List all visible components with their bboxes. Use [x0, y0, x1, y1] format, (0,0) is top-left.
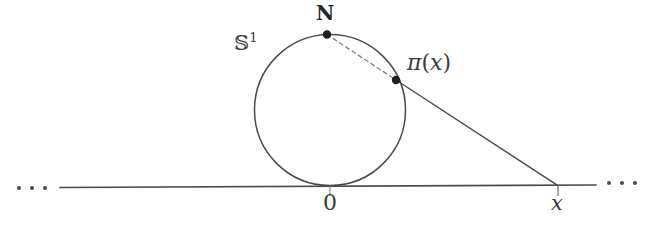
- north-pole-label: N: [316, 3, 334, 23]
- ellipsis-dot: [17, 186, 21, 190]
- ellipsis-dot: [620, 181, 624, 185]
- projection-ray: [396, 80, 558, 186]
- x-point-label: x: [551, 193, 563, 214]
- projection-point-dot: [392, 76, 400, 84]
- projection-label: π(x): [407, 52, 451, 74]
- left-ellipsis: [17, 186, 47, 190]
- projection-label-pi: π: [407, 50, 421, 75]
- unit-circle: [255, 35, 406, 186]
- ellipsis-dot: [30, 186, 34, 190]
- ellipsis-dot: [633, 181, 637, 185]
- sphere-label: 𝕊1: [234, 33, 257, 54]
- ellipsis-dot: [43, 186, 47, 190]
- sphere-label-exponent: 1: [249, 30, 257, 45]
- ellipsis-dot: [607, 181, 611, 185]
- projection-label-arg: x: [430, 50, 442, 75]
- sphere-label-symbol: 𝕊: [234, 31, 249, 55]
- origin-label: 0: [323, 192, 337, 214]
- projection-label-open-paren: (: [421, 50, 430, 75]
- projection-label-close-paren: ): [442, 50, 451, 75]
- stereographic-projection-figure: 𝕊1 N π(x) 0 x: [0, 0, 661, 235]
- right-ellipsis: [607, 181, 637, 185]
- north-pole-dot: [323, 30, 331, 38]
